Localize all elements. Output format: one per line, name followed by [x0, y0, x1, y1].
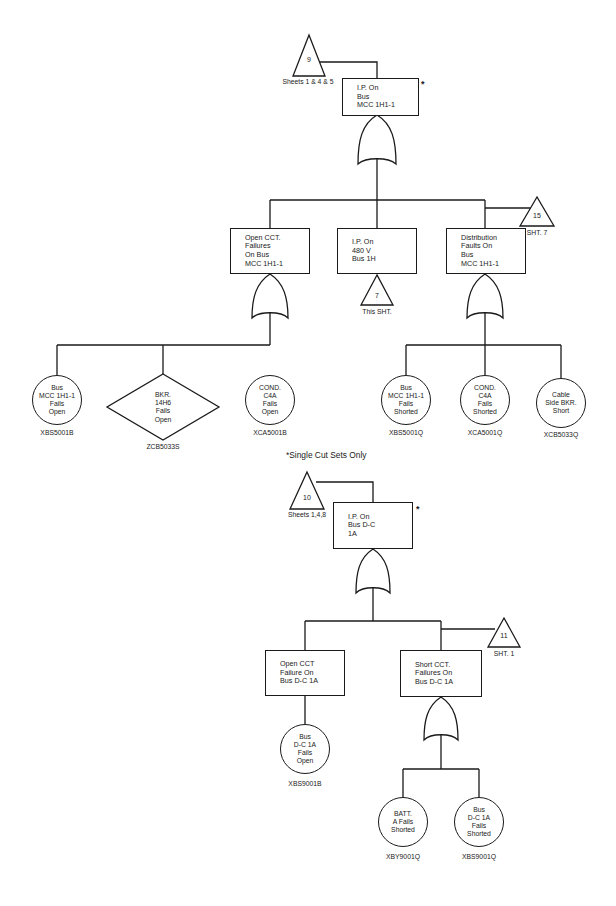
or-gate-open-cct: [252, 274, 288, 318]
transfer-7-number: 7: [367, 292, 387, 299]
basic-event-circle: COND. C4A Fails Shorted: [460, 375, 510, 425]
basic-event-circle: COND. C4A Fails Open: [245, 375, 295, 425]
top-event-box: I.P. On Bus MCC 1H1-1: [342, 78, 419, 116]
transfer-triangle-7: [361, 275, 393, 305]
event-code: XCA5001B: [240, 429, 300, 436]
intermediate-event-short-cct-dc: Short CCT. Failures On Bus D-C 1A: [400, 650, 482, 697]
transfer-in-label: Sheets 1,4,8: [272, 511, 342, 518]
intermediate-event-open-cct-dc: Open CCT Failure On Bus D-C 1A: [265, 650, 345, 696]
basic-event-circle: Bus D-C 1A Fails Open: [280, 724, 330, 774]
intermediate-event-open-cct: Open CCT. Failures On Bus MCC 1H1-1: [230, 228, 310, 274]
transfer-in-number: 10: [297, 494, 317, 501]
basic-event-circle: Cable Side BKR. Short: [536, 378, 586, 428]
basic-event-circle: BATT. A Fails Shorted: [378, 797, 428, 847]
transfer-in-number: 9: [299, 56, 319, 63]
basic-event-circle: Bus MCC 1H1-1 Fails Shorted: [381, 375, 431, 425]
event-code: XCA5001Q: [455, 429, 515, 436]
top-event-text: I.P. On Bus MCC 1H1-1: [343, 84, 395, 110]
transfer-11-label: SHT. 1: [484, 650, 524, 657]
event-code: XBS9001Q: [449, 853, 509, 860]
event-code: XCB5033Q: [531, 431, 591, 438]
event-code: ZCB5033S: [133, 443, 193, 450]
intermediate-event-480v: I.P. On 480 V Bus 1H: [337, 228, 417, 274]
or-gate-short-cct: [424, 697, 458, 740]
event-code: XBS9001B: [275, 780, 335, 787]
basic-event-circle: Bus MCC 1H1-1 Fails Open: [32, 375, 82, 425]
event-code: XBS5001Q: [376, 429, 436, 436]
transfer-15-label: SHT. 7: [517, 229, 557, 236]
transfer-15-number: 15: [527, 212, 547, 219]
diamond-text: BKR. 14H6 Fails Open: [133, 391, 193, 424]
single-cut-marker: *: [421, 79, 425, 89]
or-gate-top-2: [356, 549, 390, 593]
single-cut-marker: *: [416, 504, 420, 514]
event-code: XBS5001B: [27, 429, 87, 436]
footnote: *Single Cut Sets Only: [286, 450, 367, 460]
transfer-in-label: Sheets 1 & 4 & 5: [262, 78, 354, 85]
or-gate-distribution: [467, 274, 503, 318]
basic-event-circle: Bus D-C 1A Fails Shorted: [454, 797, 504, 847]
transfer-7-label: This SHT.: [347, 308, 407, 315]
intermediate-event-distribution: Distribution Faults On Bus MCC 1H1-1: [446, 228, 526, 274]
transfer-11-number: 11: [494, 632, 514, 639]
transfer-in-triangle-10: [290, 472, 324, 509]
or-gate-top: [358, 115, 396, 164]
event-code: XBY9001Q: [373, 853, 433, 860]
top-event-box-2: I.P. On Bus D-C 1A: [333, 502, 413, 549]
